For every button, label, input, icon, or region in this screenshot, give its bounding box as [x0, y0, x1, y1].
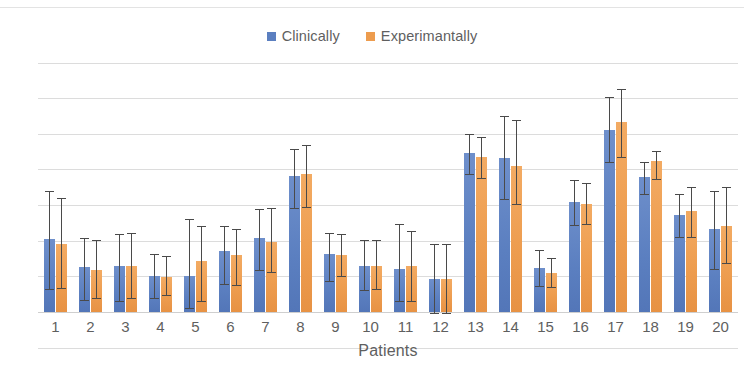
error-bar-cap-lower	[710, 269, 719, 270]
error-bar-cap-upper	[337, 234, 346, 235]
legend-entry-clinically[interactable]: Clinically	[267, 28, 340, 44]
error-bar-cap-upper	[710, 191, 719, 192]
error-bar-cap-lower	[500, 199, 509, 200]
x-axis-tick-label: 7	[261, 318, 269, 335]
error-bar-cap-lower	[395, 301, 404, 302]
bar-group	[178, 55, 213, 345]
error-bar-cap-upper	[395, 224, 404, 225]
error-bar-line	[411, 231, 412, 302]
error-bar-line	[679, 194, 680, 237]
error-bar-cap-upper	[127, 233, 136, 234]
error-bar-cap-upper	[465, 134, 474, 135]
error-bar-cap-upper	[442, 244, 451, 245]
error-bar-line	[224, 226, 225, 284]
error-bar-cap-lower	[115, 301, 124, 302]
bar-clinically[interactable]	[464, 153, 475, 312]
bar-group	[388, 55, 423, 345]
error-bar-cap-lower	[675, 237, 684, 238]
legend-entry-experimantally[interactable]: Experimantally	[366, 28, 478, 44]
plot-area: 35302520151050-5	[38, 55, 738, 345]
error-bar-cap-lower	[290, 208, 299, 209]
error-bar-line	[96, 240, 97, 298]
error-bar-cap-lower	[547, 287, 556, 288]
bar-group	[423, 55, 458, 345]
bar-group	[493, 55, 528, 345]
error-bar-cap-upper	[185, 219, 194, 220]
bar-experimantally[interactable]	[476, 157, 487, 312]
bar-group	[143, 55, 178, 345]
error-bar-cap-lower	[150, 298, 159, 299]
error-bar-line	[306, 145, 307, 207]
legend-swatch-icon	[267, 32, 276, 41]
error-bar-line	[376, 240, 377, 289]
bar-group	[248, 55, 283, 345]
error-bar-cap-lower	[92, 298, 101, 299]
error-bar-cap-upper	[722, 187, 731, 188]
error-bar-cap-lower	[372, 289, 381, 290]
error-bar-cap-lower	[640, 194, 649, 195]
error-bar-line	[49, 191, 50, 289]
error-bar-cap-lower	[570, 225, 579, 226]
error-bar-cap-upper	[547, 258, 556, 259]
error-bar-line	[201, 226, 202, 302]
error-bar-cap-upper	[617, 89, 626, 90]
x-axis-tick-label: 8	[296, 318, 304, 335]
error-bar-line	[189, 219, 190, 309]
bar-group	[668, 55, 703, 345]
error-bar-cap-upper	[150, 254, 159, 255]
x-axis-tick-label: 10	[362, 318, 379, 335]
error-bar-cap-upper	[197, 226, 206, 227]
bar-experimantally[interactable]	[651, 161, 662, 312]
x-axis-title: Patients	[38, 342, 738, 360]
error-bar-cap-lower	[407, 301, 416, 302]
error-bar-cap-lower	[220, 284, 229, 285]
bar-clinically[interactable]	[639, 177, 650, 312]
error-bar-cap-lower	[617, 157, 626, 158]
error-bar-cap-upper	[45, 191, 54, 192]
error-bar-line	[271, 208, 272, 272]
error-bar-cap-lower	[360, 290, 369, 291]
x-axis-tick-label: 18	[642, 318, 659, 335]
error-bar-cap-upper	[512, 120, 521, 121]
error-bar-cap-upper	[652, 151, 661, 152]
error-bar-cap-upper	[640, 162, 649, 163]
error-bar-line	[131, 233, 132, 298]
error-bar-cap-lower	[652, 179, 661, 180]
bar-group	[108, 55, 143, 345]
error-bar-cap-lower	[605, 162, 614, 163]
error-bar-line	[294, 149, 295, 208]
error-bar-line	[364, 240, 365, 290]
bar-group	[38, 55, 73, 345]
error-bar-line	[259, 209, 260, 270]
error-bar-cap-lower	[80, 300, 89, 301]
error-bar-cap-upper	[582, 183, 591, 184]
bar-group	[458, 55, 493, 345]
error-bar-line	[644, 162, 645, 195]
legend-label: Experimantally	[381, 28, 478, 44]
x-axis-tick-label: 11	[398, 318, 414, 335]
error-bar-cap-lower	[162, 295, 171, 296]
error-bar-cap-lower	[325, 281, 334, 282]
error-bar-line	[469, 134, 470, 175]
error-bar-cap-upper	[232, 229, 241, 230]
bar-group	[213, 55, 248, 345]
error-bar-cap-upper	[57, 198, 66, 199]
error-bar-cap-lower	[477, 178, 486, 179]
error-bar-cap-lower	[45, 289, 54, 290]
legend-label: Clinically	[282, 28, 340, 44]
error-bar-line	[691, 187, 692, 238]
error-bar-cap-upper	[500, 116, 509, 117]
error-bar-cap-lower	[232, 285, 241, 286]
error-bar-line	[609, 97, 610, 163]
error-bar-line	[574, 180, 575, 225]
error-bar-line	[446, 244, 447, 314]
bar-groups	[38, 55, 738, 345]
error-bar-cap-upper	[92, 240, 101, 241]
error-bar-cap-lower	[535, 286, 544, 287]
x-axis-tick-label: 16	[572, 318, 589, 335]
error-bar-cap-upper	[325, 233, 334, 234]
error-bar-cap-upper	[80, 238, 89, 239]
x-axis-tick-label: 19	[677, 318, 694, 335]
error-bar-cap-upper	[605, 97, 614, 98]
error-bar-cap-upper	[255, 209, 264, 210]
